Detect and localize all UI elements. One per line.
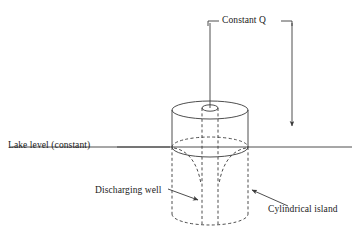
- drawdown-cone-right: [219, 148, 246, 184]
- drawdown-cone-left: [174, 148, 201, 184]
- waterline-ellipse-back-half: [172, 137, 248, 147]
- cylindrical-island-label: Cylindrical island: [268, 205, 338, 215]
- discharging-well-label: Discharging well: [95, 186, 162, 196]
- lake-level-label: Lake level (constant): [8, 141, 90, 151]
- constant-q-right-leader: [281, 21, 292, 26]
- discharging-well-callout-arrow: [168, 189, 198, 200]
- waterline-ellipse-front-half: [172, 147, 248, 157]
- constant-q-label: Constant Q: [222, 16, 266, 26]
- cylinder-bottom-ellipse: [172, 214, 248, 225]
- diagram-canvas: Lake level (constant) Constant Q Dischar…: [0, 0, 359, 241]
